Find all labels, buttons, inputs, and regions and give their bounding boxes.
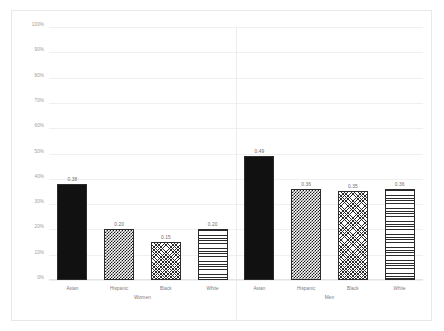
bar-group-men: 0.49Asian0.36Hispanic0.35Black0.36WhiteM…: [236, 27, 423, 280]
bar-women-asian[interactable]: [57, 184, 87, 280]
bar-group-women: 0.38Asian0.20Hispanic0.15Black0.20WhiteW…: [49, 27, 236, 280]
x-axis-category-label: Asian: [66, 286, 78, 291]
x-axis-category-label: Black: [347, 286, 359, 291]
bar-slot: 0.36White: [385, 27, 415, 280]
bar-value-label: 0.49: [254, 149, 264, 154]
bar-value-label: 0.20: [208, 222, 218, 227]
y-axis-tick-label: 50%: [35, 149, 45, 154]
x-axis-category-label: Black: [160, 286, 172, 291]
bar-value-label: 0.15: [161, 235, 171, 240]
y-axis-tick-label: 40%: [35, 174, 45, 179]
y-axis-tick-label: 30%: [35, 199, 45, 204]
x-axis-category-label: Asian: [253, 286, 265, 291]
bar-slot: 0.38Asian: [57, 27, 87, 280]
y-axis-tick-label: 100%: [32, 22, 44, 27]
y-axis-tick-label: 80%: [35, 73, 45, 78]
bar-value-label: 0.36: [301, 182, 311, 187]
y-axis-tick-label: 90%: [35, 47, 45, 52]
y-axis-tick-label: 60%: [35, 123, 45, 128]
x-axis-category-label: Hispanic: [110, 286, 128, 291]
chart-card: 100%90%80%70%60%50%40%30%20%10%0% 0.38As…: [11, 10, 432, 321]
x-axis-category-label: White: [394, 286, 406, 291]
bar-value-label: 0.20: [114, 222, 124, 227]
plot-area: 100%90%80%70%60%50%40%30%20%10%0% 0.38As…: [49, 27, 423, 280]
bar-men-white[interactable]: [385, 189, 415, 280]
bar-slot: 0.15Black: [151, 27, 181, 280]
bar-value-label: 0.36: [395, 182, 405, 187]
x-axis-category-label: White: [207, 286, 219, 291]
bar-women-hispanic[interactable]: [104, 229, 134, 280]
x-axis-group-label: Men: [236, 295, 423, 300]
x-axis-category-label: Hispanic: [297, 286, 315, 291]
bar-men-black[interactable]: [338, 191, 368, 280]
bar-men-hispanic[interactable]: [291, 189, 321, 280]
bar-men-asian[interactable]: [244, 156, 274, 280]
bar-value-label: 0.38: [67, 177, 77, 182]
bar-value-label: 0.35: [348, 184, 358, 189]
y-axis-tick-label: 0%: [37, 275, 44, 280]
bar-women-white[interactable]: [198, 229, 228, 280]
x-axis-group-label: Women: [49, 295, 236, 300]
bar-slot: 0.36Hispanic: [291, 27, 321, 280]
bar-women-black[interactable]: [151, 242, 181, 280]
bar-groups: 0.38Asian0.20Hispanic0.15Black0.20WhiteW…: [49, 27, 423, 280]
y-axis-tick-label: 10%: [35, 250, 45, 255]
bar-slot: 0.20White: [198, 27, 228, 280]
bar-slot: 0.35Black: [338, 27, 368, 280]
bar-slot: 0.20Hispanic: [104, 27, 134, 280]
bar-slot: 0.49Asian: [244, 27, 274, 280]
y-axis-tick-label: 20%: [35, 224, 45, 229]
y-axis-tick-label: 70%: [35, 98, 45, 103]
